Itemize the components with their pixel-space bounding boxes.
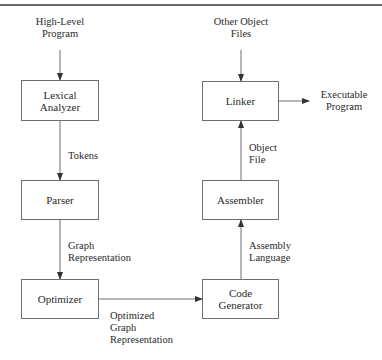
node-label: Parser — [46, 194, 74, 206]
node-label: Linker — [226, 95, 255, 107]
edge-label-line: Graph — [110, 322, 173, 334]
edge-label-optimized-graph-representation: Optimized Graph Representation — [110, 310, 173, 346]
edge-label-object-file: Object File — [249, 142, 277, 166]
edge-label-line: Representation — [68, 252, 131, 264]
node-label: Assembler — [217, 194, 264, 206]
input-label-line: High-Level — [22, 16, 98, 28]
input-high-level-program: High-Level Program — [22, 16, 98, 40]
node-assembler: Assembler — [202, 180, 279, 220]
node-label: Optimizer — [38, 293, 83, 305]
output-executable-program: Executable Program — [312, 89, 376, 113]
input-label-line: Program — [22, 28, 98, 40]
edge-label-line: Object — [249, 142, 277, 154]
node-optimizer: Optimizer — [21, 279, 99, 319]
node-code-generator: Code Generator — [202, 279, 279, 319]
edge-label-graph-representation: Graph Representation — [68, 240, 131, 264]
output-label-line: Program — [312, 101, 376, 113]
edge-label-assembly-language: Assembly Language — [249, 240, 291, 264]
node-lexical-analyzer: Lexical Analyzer — [21, 80, 99, 121]
node-label: Code — [219, 287, 263, 299]
edge-label-line: Assembly — [249, 240, 291, 252]
edge-label-tokens: Tokens — [68, 150, 98, 162]
node-parser: Parser — [21, 180, 99, 220]
input-label-line: Files — [196, 28, 286, 40]
node-label: Lexical — [40, 89, 80, 101]
edge-label-line: Language — [249, 252, 291, 264]
edge-label-line: Optimized — [110, 310, 173, 322]
node-label: Analyzer — [40, 101, 80, 113]
input-label-line: Other Object — [196, 16, 286, 28]
edge-label-line: Tokens — [68, 150, 98, 162]
edge-label-line: Representation — [110, 334, 173, 346]
node-linker: Linker — [202, 81, 279, 121]
node-label: Generator — [219, 299, 263, 311]
edge-label-line: File — [249, 154, 277, 166]
output-label-line: Executable — [312, 89, 376, 101]
edge-label-line: Graph — [68, 240, 131, 252]
input-other-object-files: Other Object Files — [196, 16, 286, 40]
